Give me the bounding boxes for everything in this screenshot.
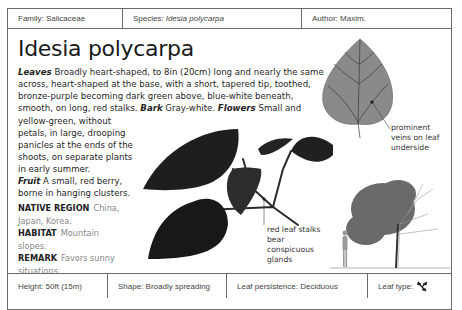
simple-leaf-icon: [416, 280, 428, 292]
family-cell: Family: Salicaceae: [8, 9, 123, 28]
species-value: Idesia polycarpa: [166, 14, 224, 23]
leaf-persistence-cell: Leaf persistence: Deciduous: [227, 274, 368, 298]
species-cell: Species:Idesia polycarpa: [123, 9, 302, 28]
header-row: Family: Salicaceae Species:Idesia polyca…: [8, 9, 451, 29]
author-label: Author:: [312, 14, 338, 23]
flowers-text: Small and: [256, 103, 302, 113]
flowers-label: Flowers: [218, 103, 256, 113]
human-scale-figure: [343, 231, 348, 268]
facts-block: NATIVE REGIONChina, Japan, Korea. HABITA…: [18, 202, 130, 277]
annotation-leaf-stalks: red leaf stalks bear conspicuous glands: [267, 225, 327, 265]
family-label: Family:: [18, 14, 44, 23]
tree-silhouette-illustration: [328, 174, 453, 271]
description-block: Leaves Broadly heart-shaped, to 8in (20c…: [18, 66, 328, 114]
leaf-type-cell: Leaf type:: [368, 274, 451, 298]
flowers-text-continued: yellow-green, without petals, in large, …: [18, 116, 133, 174]
native-region: NATIVE REGIONChina, Japan, Korea.: [18, 202, 130, 227]
author-value: Maxim.: [340, 14, 366, 23]
leaves-label: Leaves: [18, 67, 52, 77]
footer-row: Height: 50ft (15m) Shape: Broadly spread…: [8, 273, 451, 298]
description-continued: yellow-green, without petals, in large, …: [18, 115, 138, 200]
family-value: Salicaceae: [46, 14, 85, 23]
author-cell: Author: Maxim.: [302, 9, 451, 28]
bark-label: Bark: [140, 103, 162, 113]
species-label: Species:: [133, 14, 164, 23]
annotation-line-stalks: [261, 197, 267, 227]
leaf-type-label: Leaf type:: [378, 282, 413, 291]
height-cell: Height: 50ft (15m): [8, 274, 108, 298]
species-card: Family: Salicaceae Species:Idesia polyca…: [7, 8, 452, 310]
fruit-label: Fruit: [18, 176, 40, 186]
bark-text: Gray-white.: [163, 103, 218, 113]
shape-cell: Shape: Broadly spreading: [108, 274, 227, 298]
annotation-leaf-underside: prominent veins on leaf underside: [391, 123, 451, 153]
habitat: HABITATMountain slopes.: [18, 227, 130, 252]
page-title: Idesia polycarpa: [18, 36, 194, 61]
